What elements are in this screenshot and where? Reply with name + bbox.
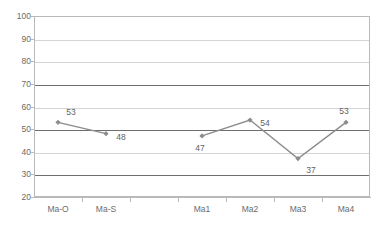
data-label-ma1: 47 — [195, 144, 204, 153]
data-label-ma2: 54 — [260, 119, 269, 128]
data-point-marker — [103, 131, 108, 136]
data-label-ma-s: 48 — [116, 132, 125, 141]
data-point-marker — [199, 133, 204, 138]
series-line — [202, 120, 346, 158]
data-point-marker — [55, 120, 60, 125]
series-line — [58, 122, 106, 133]
data-label-ma-o: 53 — [66, 108, 75, 117]
data-label-ma3: 37 — [306, 165, 315, 174]
data-label-ma4: 53 — [339, 107, 348, 116]
series-1 — [55, 117, 348, 161]
series-layer — [0, 0, 382, 239]
line-chart: 1009080706050403020 Ma-OMa-SMa1Ma2Ma3Ma4… — [0, 0, 382, 239]
